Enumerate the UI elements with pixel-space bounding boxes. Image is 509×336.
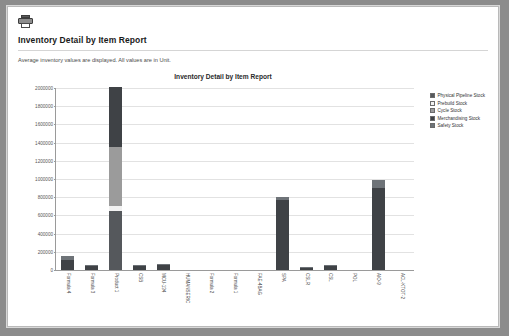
bar-group[interactable]: AIO-9 <box>366 88 390 270</box>
y-axis-tick-mark <box>54 270 56 271</box>
stacked-bar[interactable] <box>276 197 289 270</box>
stacked-bar[interactable] <box>133 265 146 270</box>
legend-item[interactable]: Cycle Stock <box>430 108 509 113</box>
stacked-bar[interactable] <box>157 264 170 270</box>
legend-label: Merchandising Stock <box>438 116 481 121</box>
bar-segment[interactable] <box>276 200 289 270</box>
stacked-bar[interactable] <box>372 180 385 270</box>
y-axis-tick-label: 400000 <box>38 231 53 236</box>
y-axis-tick-label: 1800000 <box>35 104 53 109</box>
x-axis-tick-label: ACL-KTOT-2 <box>399 273 404 299</box>
bar-group[interactable]: CSL <box>318 88 342 270</box>
chart-plot-area: 2000000180000016000001400000120000010000… <box>55 88 414 271</box>
chart-title: Inventory Detail by Item Report <box>8 73 438 80</box>
y-axis-tick-label: 1000000 <box>35 177 53 182</box>
x-axis-tick-label: MCU-134 <box>161 273 166 292</box>
bar-segment[interactable] <box>372 180 385 187</box>
x-axis-tick-label: Formula 3 <box>89 273 94 293</box>
bar-group[interactable]: ACL-KTOT-2 <box>390 88 414 270</box>
x-axis-tick-label: HUMANSERIC <box>185 273 190 303</box>
x-axis-tick-label: Formula 1 <box>232 273 237 293</box>
legend-label: Prebuild Stock <box>438 101 468 106</box>
y-axis-tick-label: 1200000 <box>35 158 53 163</box>
bar-segment[interactable] <box>109 211 122 270</box>
stacked-bar[interactable] <box>85 265 98 270</box>
legend-swatch <box>430 116 435 121</box>
legend-swatch <box>430 108 435 113</box>
legend-swatch <box>430 93 435 98</box>
report-header: Inventory Detail by Item Report Average … <box>8 7 498 63</box>
bar-segment[interactable] <box>324 266 337 270</box>
y-axis-tick-label: 1600000 <box>35 122 53 127</box>
bar-group[interactable]: Formula 1 <box>223 88 247 270</box>
bar-segment[interactable] <box>85 266 98 270</box>
x-axis-tick-label: Formula 2 <box>209 273 214 293</box>
bar-group[interactable]: CSB <box>128 88 152 270</box>
legend-item[interactable]: Safety Stock <box>430 123 509 128</box>
legend-swatch <box>430 101 435 106</box>
bar-group[interactable]: MCU-134 <box>151 88 175 270</box>
printer-icon <box>18 15 33 29</box>
bar-group[interactable]: Formula 2 <box>199 88 223 270</box>
stacked-bar[interactable] <box>324 265 337 270</box>
legend-item[interactable]: Physical Pipeline Stock <box>430 93 509 98</box>
x-axis-tick-label: CSL <box>328 273 333 282</box>
x-axis-tick-label: Product 1 <box>113 273 118 292</box>
bar-group[interactable]: Product 1 <box>104 88 128 270</box>
bar-group[interactable]: SPA <box>271 88 295 270</box>
x-axis-tick-label: CSLR <box>304 273 309 285</box>
bar-segment[interactable] <box>157 265 170 270</box>
y-axis-tick-label: 600000 <box>38 213 53 218</box>
header-divider <box>18 50 488 51</box>
page-title: Inventory Detail by Item Report <box>18 35 488 45</box>
bar-segment[interactable] <box>109 87 122 147</box>
bar-group[interactable]: Formula 4 <box>56 88 80 270</box>
y-axis-tick-label: 2000000 <box>35 86 53 91</box>
legend-swatch <box>430 123 435 128</box>
bar-group[interactable]: HUMANSERIC <box>175 88 199 270</box>
x-axis-tick-label: AIO-9 <box>376 273 381 285</box>
chart-container: Inventory Detail by Item Report 20000001… <box>8 63 500 313</box>
bar-segment[interactable] <box>109 147 122 206</box>
x-axis-tick-label: Formula 4 <box>65 273 70 293</box>
bar-segment[interactable] <box>133 266 146 270</box>
y-axis-tick-label: 200000 <box>38 249 53 254</box>
bar-series-layer: Formula 4Formula 3Product 1CSBMCU-134HUM… <box>56 88 414 270</box>
y-axis-tick-label: 800000 <box>38 195 53 200</box>
bar-segment[interactable] <box>61 260 74 270</box>
legend-item[interactable]: Merchandising Stock <box>430 116 509 121</box>
x-axis-tick-label: CSB <box>137 273 142 282</box>
chart-legend: Physical Pipeline StockPrebuild StockCyc… <box>430 93 509 131</box>
report-page: Inventory Detail by Item Report Average … <box>7 6 499 327</box>
bar-group[interactable]: FAE-4BAG <box>247 88 271 270</box>
stacked-bar[interactable] <box>109 87 122 270</box>
bar-group[interactable]: CSLR <box>295 88 319 270</box>
bar-group[interactable]: Formula 3 <box>80 88 104 270</box>
legend-label: Safety Stock <box>438 123 464 128</box>
stacked-bar[interactable] <box>300 267 313 270</box>
y-axis-tick-label: 0 <box>50 268 53 273</box>
bar-segment[interactable] <box>300 268 313 270</box>
bar-segment[interactable] <box>372 188 385 270</box>
legend-label: Physical Pipeline Stock <box>438 93 486 98</box>
y-axis-tick-label: 1400000 <box>35 140 53 145</box>
x-axis-tick-label: FAE-4BAG <box>256 273 261 295</box>
bar-group[interactable]: POL <box>342 88 366 270</box>
stacked-bar[interactable] <box>61 256 74 270</box>
legend-item[interactable]: Prebuild Stock <box>430 101 509 106</box>
x-axis-tick-label: POL <box>352 273 357 282</box>
x-axis-tick-label: SPA <box>280 273 285 282</box>
legend-label: Cycle Stock <box>438 108 462 113</box>
